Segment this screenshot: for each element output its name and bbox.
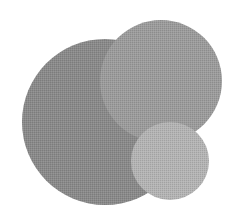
small-circle-texture (131, 122, 209, 200)
small-circle-group (131, 122, 209, 200)
circles-illustration (0, 0, 236, 219)
circles-svg (0, 0, 236, 219)
